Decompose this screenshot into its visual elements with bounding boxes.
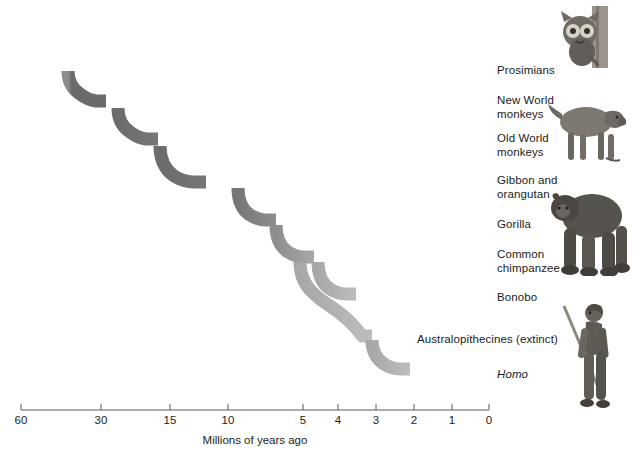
axis-tick-label-60: 60 <box>15 414 28 426</box>
hominid-illustration <box>556 300 626 410</box>
axis-title: Millions of years ago <box>203 434 308 446</box>
time-axis <box>21 404 489 410</box>
axis-tick-label-2: 2 <box>411 414 417 426</box>
tip-label-prosimians: Prosimians <box>497 64 555 78</box>
tip-label-bonobo: Bonobo <box>497 291 537 305</box>
baboon-illustration <box>546 92 628 164</box>
axis-tick-label-15: 15 <box>164 414 177 426</box>
axis-tick-label-0: 0 <box>486 414 492 426</box>
gorilla-illustration <box>548 178 632 276</box>
axis-tick-label-5: 5 <box>300 414 306 426</box>
axis-tick-label-10: 10 <box>222 414 235 426</box>
tarsier-illustration <box>552 6 614 68</box>
tip-label-old-world-monkeys: Old World monkeys <box>497 132 549 159</box>
axis-tick-label-3: 3 <box>373 414 379 426</box>
tip-label-australopithecines: Australopithecines (extinct) <box>417 333 558 347</box>
axis-tick-label-30: 30 <box>95 414 108 426</box>
tip-label-gorilla: Gorilla <box>497 218 531 232</box>
phylogenetic-tree-figure: Prosimians New World monkeys Old World m… <box>0 0 644 463</box>
tip-label-homo: Homo <box>497 368 528 382</box>
axis-tick-label-4: 4 <box>335 414 341 426</box>
axis-tick-label-1: 1 <box>449 414 455 426</box>
